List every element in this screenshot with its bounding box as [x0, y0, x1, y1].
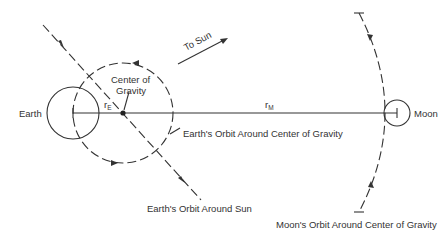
earth-orbit-cog-label: Earth's Orbit Around Center of Gravity: [183, 128, 343, 139]
earth-orbit-cog-leader: [170, 128, 180, 134]
arrow-icon: [367, 34, 373, 41]
arrow-icon: [368, 181, 374, 188]
center-of-gravity-label-line2: Gravity: [116, 85, 146, 96]
earth-moon-barycenter-diagram: Earth Moon Center of Gravity rE rM To Su…: [0, 0, 441, 233]
center-of-gravity-label-line1: Center of: [111, 74, 150, 85]
arrow-icon: [58, 40, 64, 48]
earth-orbit-sun-label: Earth's Orbit Around Sun: [147, 203, 252, 214]
r-e-label: rE: [104, 99, 112, 111]
center-of-gravity-dot: [120, 110, 125, 115]
to-sun-label: To Sun: [182, 29, 213, 53]
moon-orbit-cog-label: Moon's Orbit Around Center of Gravity: [276, 219, 437, 230]
r-m-label: rM: [265, 99, 274, 111]
earth-label: Earth: [19, 108, 42, 119]
arrow-icon: [178, 176, 185, 183]
arrow-icon: [111, 160, 118, 166]
moon-label: Moon: [414, 108, 438, 119]
